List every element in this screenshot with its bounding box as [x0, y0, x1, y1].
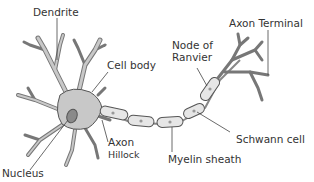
label-myelin-sheath: Myelin sheath [168, 154, 241, 165]
label-axon-hillock-line1: Axon [108, 137, 134, 148]
label-axon-terminal: Axon Terminal [229, 18, 303, 29]
myelin-sheaths [99, 75, 221, 127]
label-node-of-ranvier-line2: Ranvier [172, 52, 212, 63]
label-axon-hillock-line2: Hillock [108, 149, 140, 160]
label-node-of-ranvier-line1: Node of [172, 40, 213, 51]
neuron-diagram: Dendrite Cell body Nucleus Axon Hillock … [0, 0, 314, 182]
cell-body [57, 89, 102, 129]
label-schwann-cell: Schwann cell [236, 134, 305, 145]
label-cell-body: Cell body [107, 60, 156, 71]
label-dendrite: Dendrite [33, 7, 79, 18]
axon-terminal [218, 34, 268, 100]
label-nucleus: Nucleus [2, 168, 44, 179]
